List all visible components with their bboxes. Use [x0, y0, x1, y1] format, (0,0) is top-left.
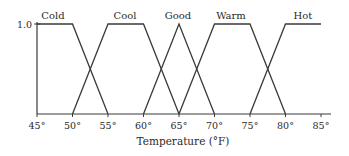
membership-cool	[73, 24, 180, 114]
x-tick-label: 85°	[313, 120, 330, 131]
series-label-warm: Warm	[216, 10, 246, 21]
membership-warm	[179, 24, 286, 114]
series-label-good: Good	[165, 10, 192, 21]
membership-good	[144, 24, 215, 114]
chart-canvas: 45°50°55°60°65°70°75°80°85°1.0 ColdCoolG…	[0, 0, 349, 156]
y-tick-label: 1.0	[17, 19, 32, 30]
x-tick-label: 60°	[135, 120, 152, 131]
series-label-cold: Cold	[41, 10, 65, 21]
membership-functions	[37, 24, 321, 114]
x-tick-label: 75°	[242, 120, 259, 131]
x-tick-label: 80°	[277, 120, 294, 131]
x-tick-label: 70°	[206, 120, 223, 131]
x-tick-label: 45°	[29, 120, 46, 131]
membership-hot	[250, 24, 321, 114]
x-tick-label: 65°	[171, 120, 188, 131]
series-labels: ColdCoolGoodWarmHot	[41, 10, 312, 21]
membership-cold	[37, 24, 108, 114]
x-tick-label: 50°	[64, 120, 81, 131]
series-label-hot: Hot	[294, 10, 313, 21]
fuzzy-membership-chart: 45°50°55°60°65°70°75°80°85°1.0 ColdCoolG…	[0, 0, 349, 156]
x-tick-label: 55°	[100, 120, 117, 131]
series-label-cool: Cool	[114, 10, 137, 21]
x-axis-title: Temperature (°F)	[137, 135, 230, 147]
